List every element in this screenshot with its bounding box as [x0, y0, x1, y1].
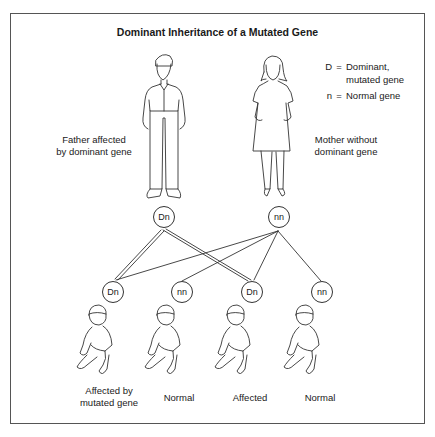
child-label-line2: Normal — [275, 392, 365, 404]
child-2-genotype: nn — [171, 281, 193, 303]
mother-genotype: nn — [268, 206, 290, 228]
father-label-line1: Father affected — [46, 134, 142, 146]
baby-figure-icon — [145, 305, 180, 374]
mother-label-line1: Mother without — [304, 134, 388, 146]
child-4-genotype: nn — [311, 281, 333, 303]
father-label-line2: by dominant gene — [46, 146, 142, 158]
child-4-label: Normal — [275, 385, 365, 404]
man-figure-icon — [143, 55, 185, 198]
baby-figure-icon — [77, 305, 112, 374]
father-genotype: Dn — [153, 206, 175, 228]
baby-figure-icon — [215, 305, 250, 374]
mother-label: Mother without dominant gene — [304, 134, 388, 158]
mother-label-line2: dominant gene — [304, 146, 388, 158]
diagram-drawing — [0, 0, 435, 437]
baby-figure-icon — [284, 305, 319, 374]
father-label: Father affected by dominant gene — [46, 134, 142, 158]
woman-figure-icon — [253, 56, 293, 196]
child-1-genotype: Dn — [102, 281, 124, 303]
child-3-genotype: Dn — [241, 281, 263, 303]
inheritance-lines — [115, 229, 321, 281]
